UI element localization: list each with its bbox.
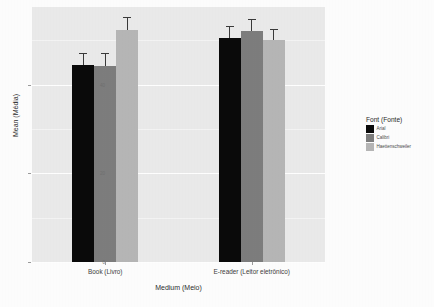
error-bar	[123, 17, 131, 30]
y-axis-tick-label: 20	[65, 171, 105, 176]
error-bar-stem	[251, 19, 252, 31]
legend-title: Font (Fonte)	[366, 116, 432, 123]
x-axis-tick-mark	[105, 262, 106, 265]
bar	[94, 66, 116, 262]
error-bar-stem	[273, 29, 274, 41]
legend-swatch-icon	[366, 134, 374, 142]
x-axis-tick-label: Book (Livro)	[88, 268, 122, 275]
plot-panel	[32, 7, 325, 262]
bar	[72, 65, 94, 262]
legend-swatch-icon	[366, 125, 374, 133]
error-bar-stem	[83, 53, 84, 65]
bar-chart-figure: ooo 70 oca au Mean (Média) Medium (Meio)…	[0, 0, 434, 307]
legend-item-calibri: Calibri	[366, 134, 432, 143]
legend: Font (Fonte) Arial Calibri Haettenschwei…	[366, 116, 432, 152]
y-axis-tick-mark	[28, 262, 31, 263]
y-axis-tick-mark	[28, 173, 31, 174]
y-axis-tick-label: 0	[65, 260, 105, 265]
y-axis-tick-label: 40	[65, 82, 105, 87]
legend-item-label: Arial	[377, 127, 386, 132]
error-bar	[226, 26, 234, 38]
error-bar-stem	[105, 53, 106, 66]
legend-swatch-icon	[366, 143, 374, 151]
error-bar	[79, 53, 87, 65]
bar	[116, 30, 138, 262]
bar	[219, 38, 241, 262]
legend-item-haettenschweiler: Haettenschweiler	[366, 143, 432, 152]
legend-item-arial: Arial	[366, 125, 432, 134]
legend-item-label: Calibri	[377, 136, 390, 141]
y-axis-label: Mean (Média)	[12, 76, 19, 156]
error-bar	[101, 53, 109, 66]
bar	[263, 40, 285, 262]
legend-item-label: Haettenschweiler	[377, 145, 412, 150]
y-axis-tick-mark	[28, 85, 31, 86]
error-bar-stem	[229, 26, 230, 38]
error-bar	[270, 29, 278, 41]
x-axis-tick-mark	[252, 262, 253, 265]
bar	[241, 31, 263, 262]
error-bar-stem	[127, 17, 128, 30]
x-axis-label: Medium (Meio)	[32, 284, 325, 291]
error-bar	[248, 19, 256, 31]
x-axis-tick-label: E-reader (Leitor eletrônico)	[214, 268, 290, 275]
